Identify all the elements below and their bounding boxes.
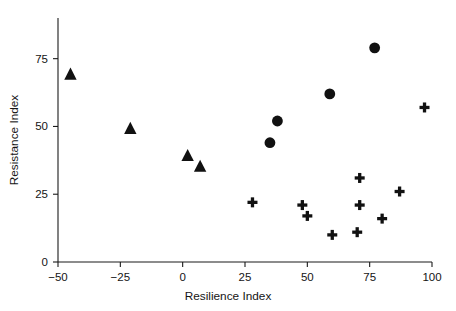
x-tick-label: −50	[48, 271, 68, 283]
y-tick-label: 75	[35, 53, 48, 65]
x-tick-label: 100	[422, 271, 441, 283]
scatter-plot-figure: −50−250255075100 0255075 Resilience Inde…	[0, 0, 456, 311]
data-point-triangle	[194, 160, 206, 172]
series-triangle	[64, 68, 206, 172]
data-point-plus	[395, 187, 405, 197]
x-tick-label: −25	[111, 271, 131, 283]
data-point-triangle	[64, 68, 76, 80]
data-point-plus	[377, 214, 387, 224]
x-tick-label: 25	[239, 271, 252, 283]
y-tick-label: 0	[42, 256, 48, 268]
data-point-plus	[327, 230, 337, 240]
x-tick-label: 0	[179, 271, 185, 283]
data-point-plus	[297, 200, 307, 210]
data-markers-group	[64, 42, 429, 239]
data-point-plus	[247, 197, 257, 207]
data-point-circle	[265, 137, 276, 148]
data-point-plus	[352, 227, 362, 237]
axes-group	[58, 18, 432, 262]
data-point-triangle	[124, 122, 136, 134]
data-point-plus	[420, 102, 430, 112]
series-circle	[265, 42, 381, 148]
data-point-plus	[355, 173, 365, 183]
data-point-circle	[324, 89, 335, 100]
data-point-circle	[369, 42, 380, 53]
y-tick-label: 25	[35, 188, 48, 200]
data-point-triangle	[181, 149, 193, 161]
chart-canvas: −50−250255075100 0255075 Resilience Inde…	[0, 0, 456, 311]
x-axis-ticks: −50−250255075100	[48, 262, 441, 283]
y-axis-title: Resistance Index	[7, 95, 21, 186]
y-tick-label: 50	[35, 120, 48, 132]
data-point-plus	[355, 200, 365, 210]
x-axis-title: Resilience Index	[185, 289, 272, 303]
data-point-circle	[272, 116, 283, 127]
x-tick-label: 50	[301, 271, 314, 283]
data-point-plus	[302, 211, 312, 221]
x-tick-label: 75	[363, 271, 376, 283]
y-axis-ticks: 0255075	[35, 53, 58, 268]
